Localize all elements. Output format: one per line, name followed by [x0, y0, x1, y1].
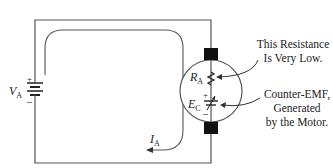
emf-plus: +: [203, 90, 208, 100]
battery-plus: +: [27, 74, 32, 84]
battery-minus: –: [26, 96, 33, 107]
arrowhead-icon: [146, 147, 153, 153]
current-path-arrow: [45, 30, 183, 150]
circuit-diagram: + – VA IA RA + – EC This Resistance Is V…: [0, 0, 333, 168]
source-voltage-label: VA: [9, 84, 22, 100]
bottom-brush: [204, 122, 218, 134]
resistance-note-line2: Is Very Low.: [264, 52, 323, 65]
resistance-note-line1: This Resistance: [257, 38, 330, 50]
current-label: IA: [149, 132, 160, 148]
emf-note-line2: Generated: [273, 102, 320, 114]
emf-note-line1: Counter-EMF,: [264, 88, 330, 101]
emf-minus: –: [202, 108, 209, 119]
emf-note-line3: by the Motor.: [266, 116, 328, 129]
top-brush: [204, 48, 218, 60]
